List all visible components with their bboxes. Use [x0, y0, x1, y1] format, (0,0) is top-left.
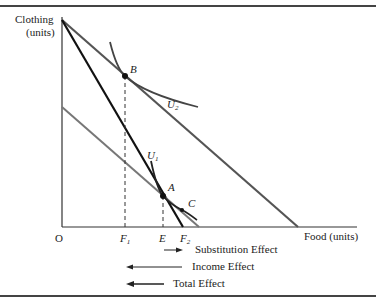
- point-a: [160, 193, 166, 199]
- f1-letter: F: [120, 232, 127, 244]
- substitution-effect-label: Substitution Effect: [195, 243, 278, 255]
- x-axis-label: Food (units): [304, 230, 358, 242]
- tick-e: E: [159, 232, 166, 244]
- diagram-canvas: [0, 0, 376, 301]
- income-arrowhead: [126, 265, 133, 270]
- u2-letter: U: [167, 98, 175, 110]
- tick-f1: F1: [120, 232, 130, 246]
- u1-subscript: 1: [155, 155, 159, 163]
- substitution-arrowhead: [176, 248, 183, 253]
- budget-line-outer: [62, 20, 298, 227]
- u2-subscript: 2: [175, 104, 179, 112]
- point-a-label: A: [168, 181, 175, 193]
- point-c: [180, 208, 184, 212]
- f2-letter: F: [180, 232, 187, 244]
- point-b: [122, 73, 128, 79]
- f1-subscript: 1: [127, 238, 131, 246]
- tick-f2: F2: [180, 232, 190, 246]
- u1-letter: U: [147, 149, 155, 161]
- f2-subscript: 2: [187, 238, 191, 246]
- total-arrowhead: [126, 281, 134, 287]
- point-c-label: C: [188, 197, 195, 209]
- total-effect-label: Total Effect: [173, 277, 225, 289]
- u2-label: U2: [167, 98, 178, 112]
- point-b-label: B: [130, 63, 137, 75]
- y-axis-label-line2: (units): [26, 26, 55, 38]
- income-effect-label: Income Effect: [192, 260, 254, 272]
- y-axis-label-line1: Clothing: [15, 13, 54, 25]
- origin-label: O: [55, 232, 63, 244]
- u1-label: U1: [147, 149, 158, 163]
